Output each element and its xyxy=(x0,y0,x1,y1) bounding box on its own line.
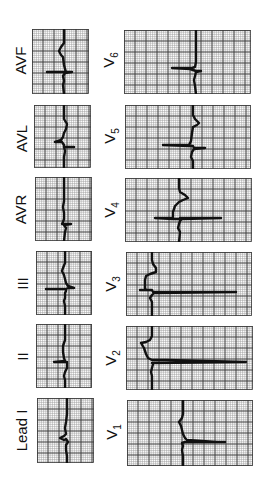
ecg-grid xyxy=(37,398,94,463)
ecg-grid xyxy=(126,326,253,390)
lead-label-lead-i: Lead I xyxy=(13,409,30,451)
ecg-grid xyxy=(36,251,92,315)
ecg-panel-v3 xyxy=(126,252,252,316)
ecg-panel-avl xyxy=(34,105,91,168)
ecg-panel-v2 xyxy=(126,326,253,390)
ecg-panel-v4 xyxy=(125,178,252,242)
ecg-trace xyxy=(155,178,221,242)
ecg-grid xyxy=(124,30,251,94)
ecg-grid xyxy=(34,105,91,168)
lead-label-v3: V3 xyxy=(102,276,122,292)
lead-label-avl: AVL xyxy=(13,124,30,151)
ecg-panel-v6 xyxy=(124,30,251,94)
ecg-panel-iii xyxy=(36,251,92,315)
ecg-panel-avr xyxy=(35,177,92,241)
ecg-grid xyxy=(35,177,92,241)
ecg-panel-lead-i xyxy=(37,398,94,463)
lead-label-avf: AVF xyxy=(12,46,29,74)
lead-label-v2: V2 xyxy=(102,350,122,366)
ecg-panel-v1 xyxy=(127,400,253,466)
ecg-panel-avf xyxy=(32,29,89,94)
ecg-trace xyxy=(62,177,71,241)
lead-label-v6: V6 xyxy=(100,52,120,68)
ecg-grid xyxy=(32,29,89,94)
ecg-grid xyxy=(36,324,92,388)
ecg-panel-v5 xyxy=(125,105,251,169)
lead-label-v5: V5 xyxy=(101,128,121,144)
lead-label-ii: II xyxy=(14,352,31,360)
ecg-panel-ii xyxy=(36,324,92,388)
lead-label-v4: V4 xyxy=(101,202,121,218)
lead-label-v1: V1 xyxy=(103,424,123,440)
lead-label-avr: AVR xyxy=(12,194,29,224)
ecg-grid xyxy=(127,400,253,466)
ecg-grid xyxy=(125,178,252,242)
lead-label-iii: III xyxy=(13,277,30,290)
ecg-grid xyxy=(125,105,251,169)
ecg-grid xyxy=(126,252,252,316)
